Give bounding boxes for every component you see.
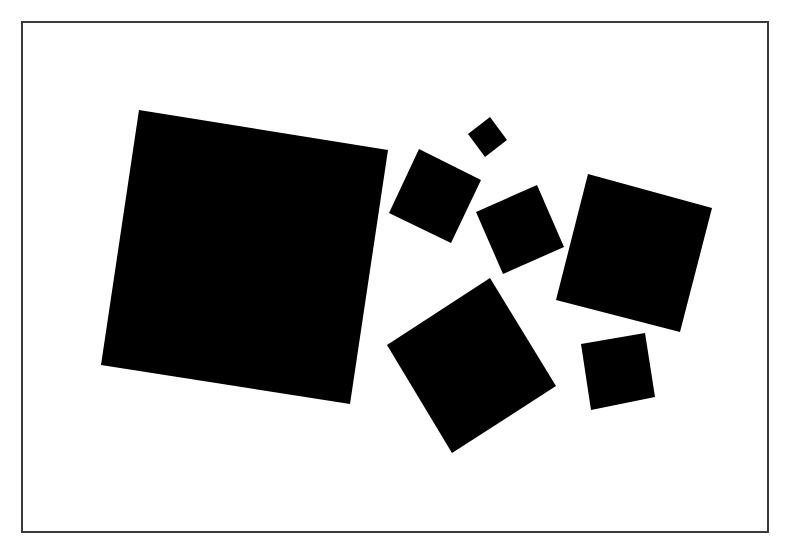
lower-right-square [581,333,655,410]
large-square [101,110,388,404]
figure-canvas [0,0,804,554]
